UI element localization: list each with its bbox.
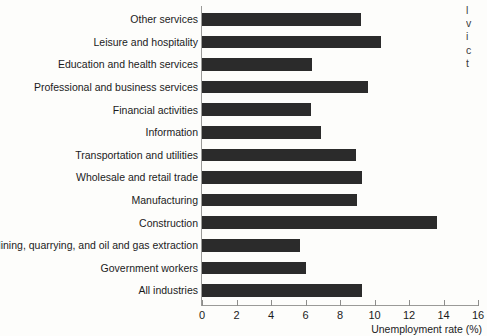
x-tick-mark [237, 300, 238, 306]
x-axis-title: Unemployment rate (%) [371, 323, 482, 335]
x-tick-mark [375, 300, 376, 306]
x-tick-label: 4 [257, 309, 285, 321]
x-tick-label: 2 [223, 309, 251, 321]
x-tick-mark [306, 300, 307, 306]
clipped-margin-note: lvict [466, 4, 487, 70]
unemployment-rate-bar-chart: Other servicesLeisure and hospitalityEdu… [0, 0, 487, 336]
x-tick-label: 0 [188, 309, 216, 321]
x-tick-mark [340, 300, 341, 306]
x-tick-label: 10 [361, 309, 389, 321]
margin-note-line: c [466, 44, 487, 57]
x-axis-ticks: 0246810121416 [0, 0, 487, 336]
margin-note-line: t [466, 57, 487, 70]
x-tick-mark [478, 300, 479, 306]
x-tick-mark [271, 300, 272, 306]
x-tick-label: 12 [395, 309, 423, 321]
margin-note-line: i [466, 30, 487, 43]
x-tick-mark [202, 300, 203, 306]
x-tick-mark [409, 300, 410, 306]
margin-note-line: l [466, 4, 487, 17]
x-tick-label: 14 [430, 309, 458, 321]
x-tick-mark [444, 300, 445, 306]
x-tick-label: 16 [464, 309, 487, 321]
x-tick-label: 8 [326, 309, 354, 321]
margin-note-line: v [466, 17, 487, 30]
x-tick-label: 6 [292, 309, 320, 321]
